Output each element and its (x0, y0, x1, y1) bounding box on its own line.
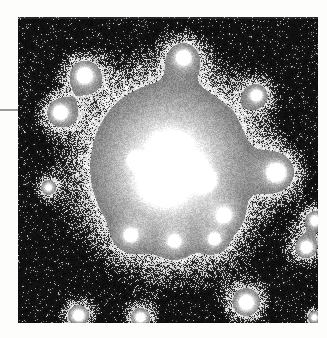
galaxy-image-canvas (18, 17, 318, 323)
figure-alt-text: Grayscale astronomical image of a galaxy… (0, 0, 1, 1)
astronomical-image-plate (18, 17, 318, 323)
horizontal-rule (0, 109, 18, 111)
document-page: Grayscale astronomical image of a galaxy… (0, 0, 327, 338)
figure-caption (0, 0, 1, 1)
